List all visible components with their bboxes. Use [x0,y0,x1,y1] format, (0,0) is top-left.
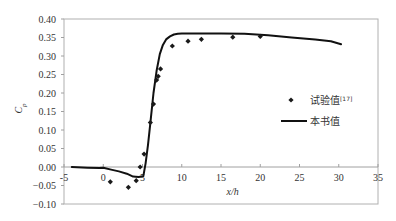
data-point [126,185,131,190]
chart: 0.400.350.300.250.200.150.100.050.00−0.0… [0,0,396,221]
y-tick-label: 0.35 [39,32,57,43]
y-tick-label: 0.10 [39,125,57,136]
x-tick-label: 35 [373,172,383,183]
x-tick-label: -5 [60,172,68,183]
y-tick-label: 0.20 [39,88,57,99]
y-tick-label: 0.15 [39,106,57,117]
y-tick-label: −0.05 [33,180,56,191]
legend-marker-diamond [288,97,293,102]
y-axis-label-sub: p [20,103,28,108]
x-tick-label: 30 [334,172,344,183]
y-tick-label: 0.00 [39,162,57,173]
data-point [134,178,139,183]
data-point [148,120,153,125]
x-tick-label: 20 [255,172,265,183]
data-point [108,179,113,184]
data-point [185,39,190,44]
series-line-本书值 [72,33,341,177]
data-point [170,43,175,48]
x-tick-label: 25 [295,172,305,183]
data-point [138,164,143,169]
legend: 试验值[17] 本书值 [281,94,352,127]
y-tick-label: 0.40 [39,14,57,25]
y-tick-label: −0.10 [33,199,56,210]
data-point [158,66,163,71]
y-tick-label: 0.25 [39,69,57,80]
legend-label-book: 本书值 [310,115,340,127]
x-tick-label: 15 [216,172,226,183]
y-tick-label: 0.30 [39,51,57,62]
legend-label-exp-sup: [17] [340,95,352,102]
y-tick-label: 0.05 [39,143,57,154]
x-axis-label: x/h [226,186,239,197]
legend-label-exp-text: 试验值 [310,94,340,106]
data-point [230,35,235,40]
legend-label-exp: 试验值[17] [310,94,352,106]
y-axis-label: Cp [13,103,28,114]
x-tick-label: 0 [101,172,106,183]
x-tick-label: 10 [177,172,187,183]
data-point [199,37,204,42]
